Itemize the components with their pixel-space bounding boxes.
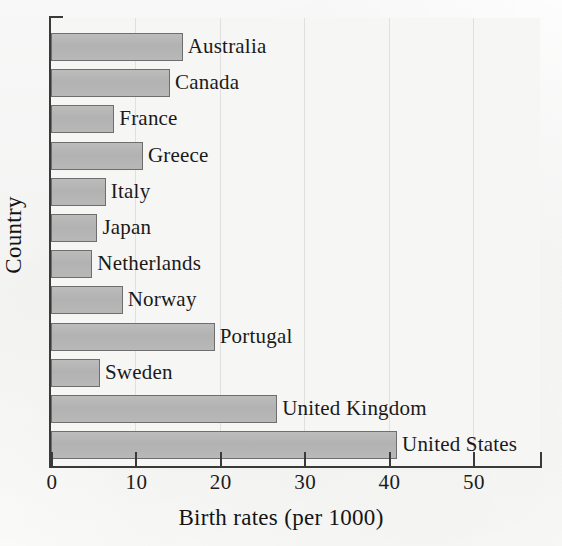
bar-label-portugal: Portugal: [220, 322, 293, 350]
bar-france: [51, 105, 114, 133]
x-axis-tick: [473, 452, 475, 467]
bar-sweden: [51, 359, 100, 387]
bar-label-united-states: United States: [402, 430, 517, 458]
bar-label-france: France: [119, 104, 177, 132]
x-axis-title: Birth rates (per 1000): [0, 505, 562, 531]
bar-label-united-kingdom: United Kingdom: [282, 394, 427, 422]
bar-label-japan: Japan: [102, 213, 151, 241]
bar-united-kingdom: [51, 395, 277, 423]
bar-label-norway: Norway: [128, 285, 197, 313]
x-axis-tick: [51, 452, 53, 467]
x-axis-tick-label: 20: [210, 470, 232, 495]
gridline: [473, 18, 474, 466]
bar-canada: [51, 69, 170, 97]
bar-australia: [51, 33, 183, 61]
bar-label-greece: Greece: [148, 141, 209, 169]
bar-label-italy: Italy: [111, 177, 150, 205]
bar-label-australia: Australia: [188, 32, 267, 60]
x-axis-tick-label: 50: [463, 470, 485, 495]
bar-norway: [51, 286, 123, 314]
bar-italy: [51, 178, 106, 206]
birth-rates-bar-chart: AustraliaCanadaFranceGreeceItalyJapanNet…: [0, 0, 562, 546]
bar-label-sweden: Sweden: [105, 358, 173, 386]
bar-portugal: [51, 323, 215, 351]
x-axis-tick-label: 10: [125, 470, 147, 495]
bar-united-states: [51, 431, 397, 459]
y-axis-top-cap: [49, 16, 63, 18]
bar-label-netherlands: Netherlands: [97, 249, 201, 277]
x-axis-tick-label: 30: [294, 470, 316, 495]
x-axis-tick: [135, 452, 137, 467]
x-axis-right-cap: [540, 452, 542, 468]
x-axis-tick-label: 0: [47, 470, 58, 495]
bar-label-canada: Canada: [175, 68, 239, 96]
x-axis-tick: [389, 452, 391, 467]
y-axis-title: Country: [1, 185, 27, 285]
bar-japan: [51, 214, 97, 242]
x-axis-tick: [220, 452, 222, 467]
bar-greece: [51, 142, 143, 170]
x-axis-line: [49, 466, 542, 468]
x-axis-tick-label: 40: [379, 470, 401, 495]
x-axis-tick: [304, 452, 306, 467]
bar-netherlands: [51, 250, 92, 278]
